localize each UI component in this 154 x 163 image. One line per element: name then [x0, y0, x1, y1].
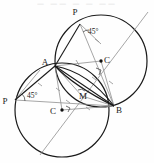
tick-mark [66, 100, 70, 103]
geometry-figure: P A C B M C P 45° 45° [0, 0, 154, 163]
segment-Pleft-B [15, 100, 114, 106]
tick-mark [109, 81, 113, 84]
point-label-M: M [79, 91, 87, 101]
point-label-C-upper: C [104, 55, 110, 65]
right-angle-mark-Clower [66, 106, 70, 112]
point-label-C-lower: C [50, 106, 56, 116]
point-label-P-left: P [2, 96, 7, 106]
centre-dot-upper [99, 59, 102, 62]
tick-mark [95, 39, 99, 42]
diagram-page: — —— — — —— [0, 0, 154, 163]
angle-label-left: 45° [27, 91, 38, 100]
tick-mark [56, 88, 60, 91]
point-label-B: B [116, 105, 122, 115]
right-angle-mark-Cupper [96, 68, 101, 75]
point-label-P-top: P [72, 7, 77, 17]
tick-mark [76, 60, 79, 65]
centre-dot-lower [60, 108, 63, 111]
angle-label-top: 45° [88, 27, 99, 36]
point-label-A: A [42, 57, 49, 67]
circles-group [15, 15, 147, 157]
angle-arc-Pleft [22, 94, 25, 101]
tick-mark [38, 83, 42, 86]
